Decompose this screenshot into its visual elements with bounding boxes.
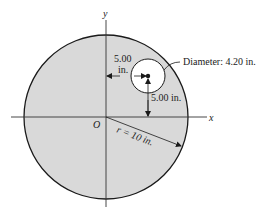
disk-diagram: y x O 5.00 in. 5.00 in. Diameter: 4.20 i… [0, 0, 265, 215]
horizontal-dim-unit: in. [118, 64, 128, 75]
origin-label: O [93, 119, 100, 130]
y-axis-label: y [102, 8, 108, 19]
diameter-label: Diameter: 4.20 in. [183, 56, 256, 67]
horizontal-dim-value: 5.00 [114, 53, 132, 64]
vertical-dim-label: 5.00 in. [151, 92, 181, 103]
x-axis-label: x [208, 112, 214, 123]
hole-center-dot [146, 74, 150, 78]
